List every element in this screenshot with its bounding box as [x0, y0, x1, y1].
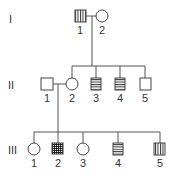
label-I-1: 1 — [77, 24, 83, 36]
individual-III-2-male-affected — [52, 143, 63, 154]
generation-label-II: II — [8, 79, 14, 91]
label-II-3: 3 — [93, 92, 99, 104]
label-II-5: 5 — [142, 92, 148, 104]
individual-I-2-female — [96, 10, 108, 22]
individual-II-4-male-affected — [115, 78, 125, 90]
generation-label-I: I — [9, 13, 12, 25]
label-II-4: 4 — [117, 92, 123, 104]
individual-II-5-male — [140, 78, 151, 90]
individual-II-2-female — [66, 78, 78, 90]
generation-label-III: III — [8, 144, 17, 156]
individual-II-3-male-affected — [91, 78, 101, 90]
pedigree-chart: I II III 1 2 1 2 3 4 5 1 2 3 4 5 — [0, 0, 173, 178]
individual-III-5-male-affected — [154, 143, 165, 155]
individual-III-1-female — [28, 143, 40, 155]
individual-II-1-male — [41, 78, 53, 90]
label-II-2: 2 — [69, 92, 75, 104]
individual-III-4-male-affected — [113, 143, 123, 155]
individual-III-3-female — [77, 143, 89, 155]
label-III-1: 1 — [31, 157, 37, 169]
individual-I-1-male-affected — [75, 10, 86, 22]
label-III-4: 4 — [115, 157, 121, 169]
label-I-2: 2 — [99, 24, 105, 36]
label-III-5: 5 — [157, 157, 163, 169]
label-II-1: 1 — [44, 92, 50, 104]
label-III-3: 3 — [80, 157, 86, 169]
label-III-2: 2 — [55, 157, 61, 169]
